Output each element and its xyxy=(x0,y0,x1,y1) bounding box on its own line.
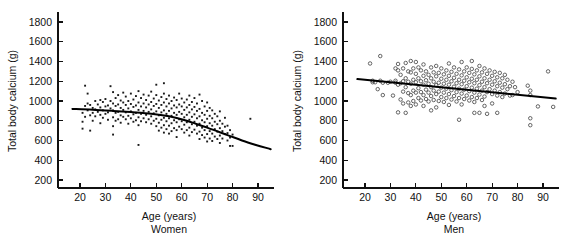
data-point xyxy=(84,105,86,107)
data-point xyxy=(206,141,208,143)
data-point xyxy=(82,112,84,114)
data-point xyxy=(427,73,431,77)
data-point xyxy=(452,66,456,70)
data-point xyxy=(117,118,119,120)
data-point xyxy=(145,121,147,123)
data-point xyxy=(153,105,155,107)
data-point xyxy=(401,102,405,106)
data-point xyxy=(181,128,183,130)
data-point xyxy=(440,95,444,99)
data-point xyxy=(221,130,223,132)
data-point xyxy=(417,86,421,90)
data-point xyxy=(465,76,469,80)
data-point xyxy=(485,112,489,116)
data-point xyxy=(135,119,137,121)
data-point xyxy=(470,86,474,90)
data-point xyxy=(455,81,459,85)
data-point xyxy=(140,120,142,122)
data-point xyxy=(168,117,170,119)
panel-men: 2004006008001000120014001600180020304050… xyxy=(285,0,570,240)
x-tick-label-20: 20 xyxy=(359,191,371,203)
data-point xyxy=(178,104,180,106)
data-point xyxy=(110,107,112,109)
y-tick-label-800: 800 xyxy=(34,114,52,126)
data-point xyxy=(406,101,410,105)
data-point xyxy=(171,100,173,102)
data-point xyxy=(485,81,489,85)
data-point xyxy=(171,130,173,132)
data-point xyxy=(155,118,157,120)
figure-total-body-calcium-by-age: 2004006008001000120014001600180020304050… xyxy=(0,0,571,240)
data-point xyxy=(138,102,140,104)
data-point xyxy=(122,102,124,104)
y-tick-label-200: 200 xyxy=(319,174,337,186)
data-point xyxy=(87,103,89,105)
data-point xyxy=(422,63,426,67)
data-point xyxy=(490,74,494,78)
data-point xyxy=(148,104,150,106)
data-point xyxy=(450,70,454,74)
data-point xyxy=(176,114,178,116)
y-tick-label-1000: 1000 xyxy=(29,95,53,107)
data-point xyxy=(396,62,400,66)
data-point xyxy=(412,67,416,71)
data-point xyxy=(173,119,175,121)
data-point xyxy=(171,107,173,109)
scatter-plot-women: 2004006008001000120014001600180020304050… xyxy=(0,0,285,240)
data-point xyxy=(219,110,221,112)
data-point xyxy=(183,109,185,111)
data-point xyxy=(199,115,201,117)
data-point xyxy=(473,111,477,115)
data-point xyxy=(399,98,403,102)
data-point xyxy=(102,101,104,103)
data-point xyxy=(447,83,451,87)
data-point xyxy=(224,126,226,128)
data-point xyxy=(209,122,211,124)
data-point xyxy=(412,99,416,103)
data-point xyxy=(82,121,84,123)
data-point xyxy=(163,82,165,84)
data-point xyxy=(219,142,221,144)
x-tick-label-30: 30 xyxy=(100,191,112,203)
data-point xyxy=(160,96,162,98)
data-points-men xyxy=(368,54,555,127)
data-point xyxy=(551,105,555,109)
plot-men-content: 2004006008001000120014001600180020304050… xyxy=(291,12,559,235)
data-point xyxy=(455,100,459,104)
data-point xyxy=(193,106,195,108)
x-tick-label-50: 50 xyxy=(150,191,162,203)
x-tick-label-80: 80 xyxy=(512,191,524,203)
data-point xyxy=(480,98,484,102)
data-point xyxy=(506,78,510,82)
data-point xyxy=(186,99,188,101)
y-tick-label-800: 800 xyxy=(319,114,337,126)
data-point xyxy=(155,84,157,86)
x-tick-label-20: 20 xyxy=(74,191,86,203)
panel-caption-women: Women xyxy=(151,223,187,235)
data-point xyxy=(424,88,428,92)
data-point xyxy=(163,124,165,126)
data-point xyxy=(120,100,122,102)
data-point xyxy=(473,100,477,104)
data-point xyxy=(107,104,109,106)
data-point xyxy=(206,118,208,120)
data-point xyxy=(110,100,112,102)
data-point xyxy=(99,106,101,108)
data-point xyxy=(186,129,188,131)
data-point xyxy=(381,93,385,97)
data-point xyxy=(204,137,206,139)
data-point xyxy=(424,79,428,83)
data-point xyxy=(391,94,395,98)
data-point xyxy=(94,115,96,117)
data-point xyxy=(376,87,380,91)
plot-women-content: 2004006008001000120014001600180020304050… xyxy=(6,12,274,235)
data-point xyxy=(196,133,198,135)
data-point xyxy=(437,81,441,85)
data-point xyxy=(498,71,502,75)
data-point xyxy=(138,144,140,146)
x-tick-label-70: 70 xyxy=(201,191,213,203)
data-point xyxy=(178,111,180,113)
data-point xyxy=(140,97,142,99)
data-point xyxy=(176,99,178,101)
data-point xyxy=(442,91,446,95)
